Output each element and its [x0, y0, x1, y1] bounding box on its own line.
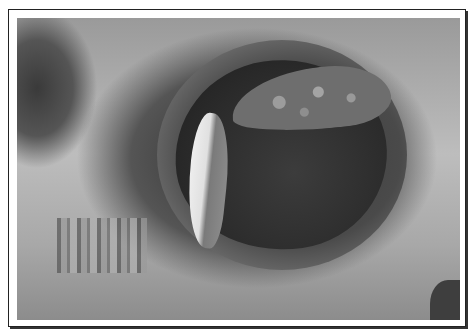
- rock-drip-formations: [57, 218, 147, 273]
- photo-frame: [8, 9, 466, 327]
- dark-corner-rock: [430, 280, 460, 320]
- photograph: [17, 18, 460, 320]
